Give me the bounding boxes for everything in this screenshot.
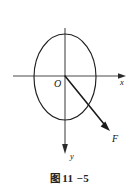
y-axis-group <box>62 28 68 154</box>
caption-number: 11 −5 <box>62 172 89 184</box>
figure-container: O x y F 图11 −5 <box>0 0 139 191</box>
mechanics-diagram: O x y F <box>0 0 139 191</box>
force-label: F <box>111 133 119 144</box>
force-vector-line <box>65 76 104 124</box>
x-axis-group <box>13 73 126 79</box>
x-axis-label: x <box>119 77 124 87</box>
force-vector-group <box>65 76 110 131</box>
y-axis-label: y <box>69 151 74 161</box>
force-vector-arrowhead <box>101 122 110 131</box>
y-axis-arrowhead <box>62 144 68 154</box>
figure-caption: 图11 −5 <box>0 172 139 185</box>
caption-chinese-character: 图 <box>50 172 60 184</box>
origin-label: O <box>54 78 61 89</box>
